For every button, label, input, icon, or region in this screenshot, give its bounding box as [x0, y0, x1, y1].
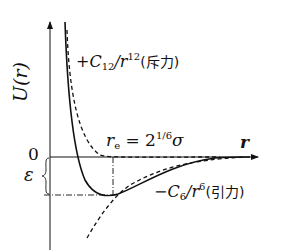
- repulsive-exponent: 12: [127, 51, 140, 62]
- epsilon-brace: [42, 158, 49, 194]
- equilibrium-exponent: 1/6: [156, 130, 172, 141]
- attractive-text: (引力): [205, 184, 244, 200]
- repulsive-text: (斥力): [140, 54, 179, 70]
- repulsive-r: /r: [114, 52, 127, 71]
- epsilon-label: ε: [24, 166, 34, 184]
- repulsive-term-label: +C12/r12(斥力): [76, 52, 179, 72]
- equilibrium-base: = 2: [120, 130, 156, 150]
- attractive-coef: −C: [154, 182, 180, 201]
- repulsive-coef: +C: [76, 52, 102, 71]
- y-axis-label: U(r): [11, 62, 30, 102]
- zero-label: 0: [28, 146, 39, 163]
- repulsive-coef-sub: 12: [102, 61, 115, 72]
- sigma-symbol: σ: [172, 130, 184, 150]
- x-axis-label: r: [240, 134, 249, 151]
- equilibrium-label: re = 21/6σ: [106, 131, 184, 151]
- attractive-term-label: −C6/r6(引力): [154, 182, 244, 202]
- equilibrium-r: r: [106, 130, 114, 150]
- lennard-jones-potential-diagram: U(r) r 0 ε +C12/r12(斥力) re = 21/6σ −C6/r…: [0, 0, 284, 251]
- total-potential-curve: [65, 22, 250, 196]
- potential-plot: [0, 0, 284, 251]
- attractive-r: /r: [186, 182, 199, 201]
